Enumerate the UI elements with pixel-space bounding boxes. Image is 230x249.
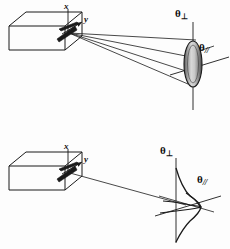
- theta-symbol: θ: [199, 41, 205, 53]
- perpendicular-subscript: ⊥: [181, 12, 188, 21]
- theta-perpendicular-label-top: θ⊥: [175, 8, 188, 19]
- theta-symbol: θ: [175, 7, 181, 19]
- x-axis-label-bottom: x: [64, 142, 69, 151]
- theta-parallel-label-bottom: θ//: [197, 174, 207, 185]
- y-axis-label-bottom: y: [84, 155, 88, 164]
- x-axis-label-top: x: [64, 2, 69, 11]
- canvas-background: [0, 0, 230, 249]
- perpendicular-subscript: ⊥: [166, 149, 173, 158]
- parallel-subscript: //: [205, 45, 209, 55]
- parallel-subscript: //: [203, 177, 207, 187]
- theta-perpendicular-label-bottom: θ⊥: [160, 145, 173, 156]
- theta-symbol: θ: [197, 173, 203, 185]
- diagram-root: x y θ⊥ θ// x y θ⊥ θ//: [0, 0, 230, 249]
- y-axis-label-top: y: [84, 15, 88, 24]
- theta-parallel-label-top: θ//: [199, 42, 209, 53]
- theta-symbol: θ: [160, 144, 166, 156]
- beam-divergence-figure: [0, 0, 230, 249]
